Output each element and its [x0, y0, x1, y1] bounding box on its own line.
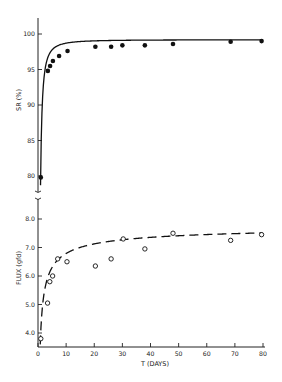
sr-data-point [228, 40, 233, 45]
sr-fit-curve [41, 40, 263, 185]
flux-data-point [228, 238, 232, 242]
flux-data-point [109, 257, 113, 261]
flux-axis-label: FLUX (gfd) [15, 251, 23, 285]
sr-data-point [48, 64, 53, 69]
flux-data-point [45, 301, 49, 305]
sr-data-point [93, 44, 98, 49]
sr-y-tick-label: 100 [23, 30, 35, 37]
x-tick-label: 20 [90, 350, 98, 357]
flux-data-point [48, 280, 52, 284]
sr-y-tick-label: 80 [27, 172, 35, 179]
flux-data-point [143, 247, 147, 251]
x-axis-label: T (DAYS) [140, 360, 169, 368]
x-tick-label: 50 [175, 350, 183, 357]
sr-data-point [65, 49, 70, 54]
flux-data-point [93, 264, 97, 268]
sr-data-point [39, 175, 44, 180]
sr-plot [39, 39, 264, 185]
sr-y-tick-label: 85 [27, 137, 35, 144]
sr-data-point [46, 69, 51, 74]
flux-y-tick-label: 8.0 [25, 215, 35, 222]
x-tick-label: 70 [231, 350, 239, 357]
axes: 808590951004.05.06.07.08.001020304050607… [23, 18, 267, 357]
sr-data-point [57, 54, 62, 59]
x-tick-label: 0 [36, 350, 40, 357]
flux-data-point [65, 260, 69, 264]
flux-data-point [259, 232, 263, 236]
flux-y-tick-label: 7.0 [25, 244, 35, 251]
sr-data-point [143, 43, 148, 48]
sr-y-tick-label: 95 [27, 66, 35, 73]
flux-y-tick-label: 6.0 [25, 272, 35, 279]
flux-plot [39, 231, 264, 344]
sr-data-point [259, 39, 264, 44]
x-tick-label: 40 [147, 350, 155, 357]
x-tick-label: 80 [259, 350, 267, 357]
sr-data-point [51, 59, 56, 64]
sr-axis-label: SR (%) [15, 89, 23, 111]
flux-data-point [121, 237, 125, 241]
sr-data-point [109, 44, 114, 49]
sr-data-point [171, 42, 176, 47]
x-tick-label: 30 [118, 350, 126, 357]
x-tick-label: 10 [62, 350, 70, 357]
x-tick-label: 60 [203, 350, 211, 357]
flux-data-point [39, 337, 43, 341]
flux-y-tick-label: 5.0 [25, 301, 35, 308]
flux-data-point [171, 231, 175, 235]
flux-data-point [55, 257, 59, 261]
flux-data-point [50, 274, 54, 278]
flux-y-tick-label: 4.0 [25, 329, 35, 336]
figure: 808590951004.05.06.07.08.001020304050607… [0, 0, 282, 382]
sr-y-tick-label: 90 [27, 101, 35, 108]
sr-data-point [120, 43, 125, 48]
flux-fit-curve [40, 233, 262, 344]
